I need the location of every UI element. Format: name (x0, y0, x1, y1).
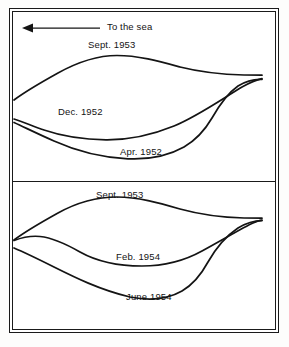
curve-lower-sept-1953 (14, 197, 262, 240)
curve-upper-sept-1953 (14, 56, 262, 101)
label-lower-feb-1954: Feb. 1954 (116, 252, 160, 262)
label-upper-apr-1952: Apr. 1952 (120, 147, 162, 157)
label-lower-june-1954: June 1954 (126, 292, 172, 302)
label-upper-sept-1953: Sept. 1953 (88, 40, 135, 50)
figure-root: To the sea Sept. 1953 Dec. 1952 Apr. 195… (0, 0, 289, 347)
arrow-left-icon (22, 23, 100, 32)
curve-upper-dec-1952 (14, 79, 262, 140)
label-upper-dec-1952: Dec. 1952 (58, 107, 103, 117)
direction-label: To the sea (107, 22, 152, 32)
label-lower-sept-1953: Sept. 1953 (96, 190, 143, 200)
